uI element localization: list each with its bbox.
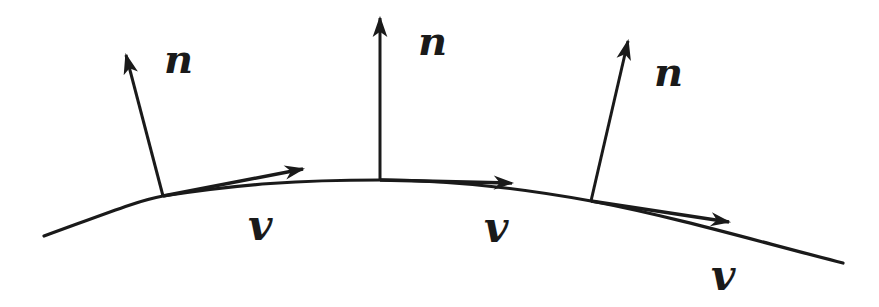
- point-3: nv: [591, 41, 736, 300]
- normal-label: n: [164, 35, 193, 82]
- normal-vector-arrow: [591, 41, 628, 201]
- point-2: nv: [380, 17, 512, 252]
- diagram-canvas: nvnvnv: [0, 0, 879, 307]
- tangent-vector-arrow: [591, 201, 729, 222]
- tangent-label: v: [248, 201, 273, 250]
- normal-label: n: [418, 17, 447, 64]
- normal-label: n: [654, 48, 683, 95]
- vectors-group: nvnvnv: [126, 17, 736, 300]
- tangent-vector-arrow: [380, 180, 512, 183]
- normal-vector-arrow: [126, 55, 163, 196]
- point-1: nv: [126, 35, 303, 250]
- diagram-svg: nvnvnv: [0, 0, 879, 307]
- tangent-label: v: [711, 251, 736, 300]
- tangent-label: v: [484, 203, 509, 252]
